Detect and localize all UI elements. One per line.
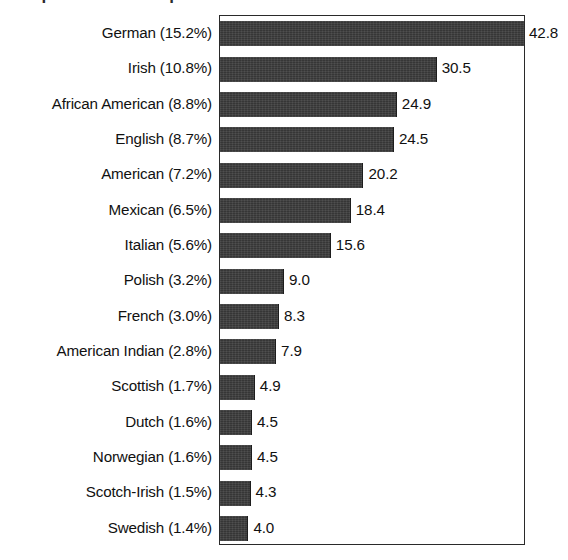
category-axis: German (15.2%)Irish (10.8%)African Ameri… — [0, 15, 212, 545]
bar — [220, 163, 363, 188]
value-label: 24.5 — [399, 131, 428, 146]
category-label: Scotch-Irish (1.5%) — [0, 484, 212, 499]
category-label: Italian (5.6%) — [0, 237, 212, 252]
value-label: 4.0 — [253, 520, 274, 535]
value-label: 7.9 — [281, 343, 302, 358]
value-label: 8.3 — [284, 308, 305, 323]
value-label: 20.2 — [368, 166, 397, 181]
bar — [220, 198, 351, 223]
plot-frame — [219, 15, 525, 545]
category-label: Norwegian (1.6%) — [0, 449, 212, 464]
value-label: 42.8 — [529, 25, 558, 40]
value-label: 4.5 — [257, 414, 278, 429]
bar — [220, 92, 397, 117]
bar — [220, 304, 279, 329]
bar — [220, 375, 255, 400]
category-label: Irish (10.8%) — [0, 60, 212, 75]
value-label: 9.0 — [289, 272, 310, 287]
category-label: American (7.2%) — [0, 166, 212, 181]
value-label: 30.5 — [442, 60, 471, 75]
bar — [220, 445, 252, 470]
bar — [220, 127, 394, 152]
value-label: 24.9 — [402, 96, 431, 111]
bar-chart: German (15.2%)Irish (10.8%)African Ameri… — [0, 0, 568, 560]
category-label: African American (8.8%) — [0, 96, 212, 111]
category-label: Scottish (1.7%) — [0, 378, 212, 393]
value-label: 4.5 — [257, 449, 278, 464]
bar — [220, 57, 437, 82]
category-label: Swedish (1.4%) — [0, 520, 212, 535]
bar — [220, 410, 252, 435]
category-label: English (8.7%) — [0, 131, 212, 146]
bar — [220, 339, 276, 364]
value-label: 18.4 — [356, 202, 385, 217]
category-label: French (3.0%) — [0, 308, 212, 323]
category-label: Dutch (1.6%) — [0, 414, 212, 429]
bar — [220, 269, 284, 294]
value-label: 15.6 — [336, 237, 365, 252]
bar — [220, 516, 248, 541]
category-label: American Indian (2.8%) — [0, 343, 212, 358]
bar — [220, 21, 524, 46]
bar — [220, 233, 331, 258]
value-label: 4.9 — [260, 378, 281, 393]
category-label: Polish (3.2%) — [0, 272, 212, 287]
category-label: Mexican (6.5%) — [0, 202, 212, 217]
category-label: German (15.2%) — [0, 25, 212, 40]
bar — [220, 481, 251, 506]
value-label: 4.3 — [256, 484, 277, 499]
